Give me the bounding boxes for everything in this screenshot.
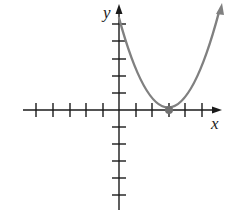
- vertex-point: [165, 106, 173, 114]
- parabola-curve: [119, 12, 219, 108]
- graph-figure: y x: [0, 0, 232, 221]
- x-axis-label: x: [210, 114, 219, 133]
- coordinate-plane: y x: [0, 0, 232, 221]
- y-axis-arrow-icon: [116, 4, 123, 14]
- curve-arrow-icon: [216, 3, 224, 15]
- y-axis-label: y: [101, 3, 111, 22]
- x-axis-arrow-icon: [212, 107, 222, 114]
- x-axis: [23, 103, 218, 117]
